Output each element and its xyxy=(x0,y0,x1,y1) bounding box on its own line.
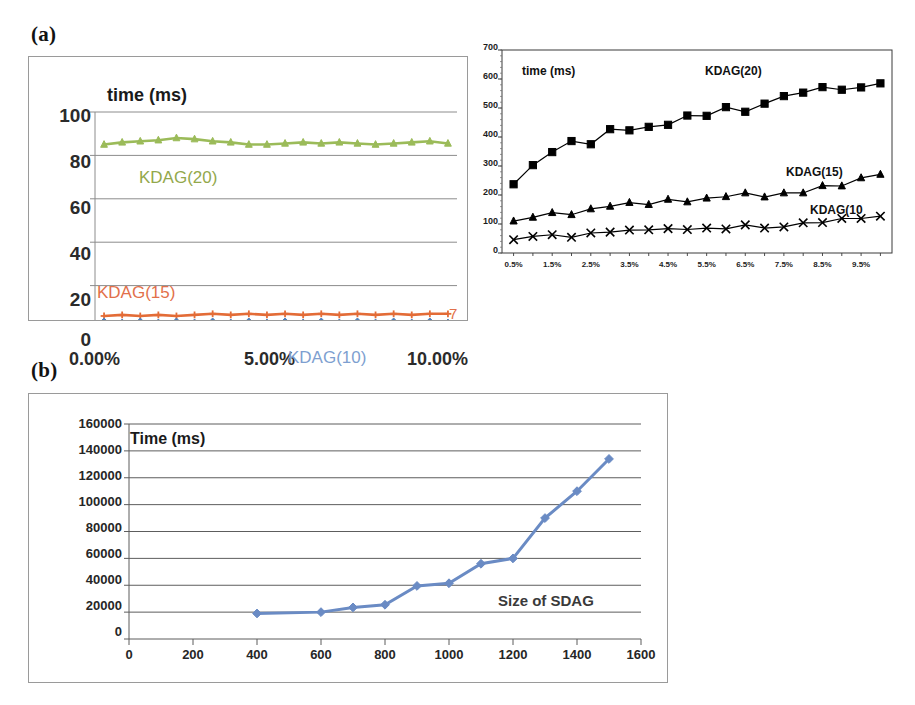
series-kdag20 xyxy=(510,80,884,188)
data-point-marker xyxy=(664,121,671,128)
data-point-marker xyxy=(510,181,517,188)
data-point-marker xyxy=(529,162,536,169)
data-point-marker xyxy=(626,127,633,134)
data-point-marker xyxy=(426,318,433,320)
data-point-marker xyxy=(819,84,826,91)
data-point-marker xyxy=(245,318,252,320)
data-point-marker xyxy=(119,311,126,318)
data-point-marker xyxy=(838,86,845,93)
data-point-marker xyxy=(607,126,614,133)
data-point-marker xyxy=(101,318,108,320)
chart-b: 0 20000 40000 60000 80000 100000 120000 … xyxy=(28,393,668,683)
data-point-marker xyxy=(300,311,307,318)
data-point-marker xyxy=(317,608,326,617)
data-point-marker xyxy=(408,319,415,320)
series-kdag15 xyxy=(101,310,452,319)
data-point-marker xyxy=(645,123,652,130)
series-line xyxy=(257,459,609,614)
data-point-marker xyxy=(549,148,556,155)
chart-a-right: 700 600 500 400 300 200 100 0 time (ms) … xyxy=(468,38,903,298)
series-kdag20 xyxy=(101,134,452,147)
data-point-marker xyxy=(780,189,787,196)
data-point-marker xyxy=(408,311,415,318)
x-tick-label: 5.00% xyxy=(244,349,295,370)
series-time-ms xyxy=(253,455,614,618)
data-point-marker xyxy=(354,310,361,317)
data-point-marker xyxy=(626,198,633,205)
data-point-marker xyxy=(282,310,289,317)
data-point-marker xyxy=(155,319,162,320)
data-point-marker xyxy=(761,100,768,107)
data-point-marker xyxy=(227,319,234,320)
data-point-marker xyxy=(191,319,198,320)
figure-root: (a) 0 20 40 60 80 100 0.00% 5.00% 10.00%… xyxy=(0,0,915,705)
x-tick-label: 10.00% xyxy=(407,349,468,370)
y-tick-label: 0 xyxy=(29,329,91,351)
data-point-marker xyxy=(722,104,729,111)
data-point-marker xyxy=(336,311,343,318)
data-point-marker xyxy=(549,209,556,216)
data-point-marker xyxy=(877,170,884,177)
data-point-marker xyxy=(587,141,594,148)
data-point-marker xyxy=(372,319,379,320)
data-point-marker xyxy=(684,112,691,119)
data-point-marker xyxy=(819,182,826,189)
data-point-marker xyxy=(282,318,289,320)
data-point-marker xyxy=(390,310,397,317)
data-point-marker xyxy=(445,310,452,317)
panel-label-a: (a) xyxy=(31,22,56,47)
data-point-marker xyxy=(372,311,379,318)
series-kdag10 xyxy=(101,318,452,320)
data-point-marker xyxy=(155,311,162,318)
series-line xyxy=(514,174,881,221)
data-point-marker xyxy=(800,89,807,96)
chart-a-right-plot xyxy=(468,38,903,298)
data-point-marker xyxy=(703,112,710,119)
data-point-marker xyxy=(780,93,787,100)
data-point-marker xyxy=(664,195,671,202)
data-point-marker xyxy=(253,609,262,618)
data-point-marker xyxy=(191,311,198,318)
data-point-marker xyxy=(173,318,180,320)
chart-a-left-plot xyxy=(29,57,467,320)
data-point-marker xyxy=(209,310,216,317)
data-point-marker xyxy=(858,84,865,91)
data-point-marker xyxy=(742,108,749,115)
chart-b-plot xyxy=(29,394,667,682)
data-point-marker xyxy=(119,319,126,320)
data-point-marker xyxy=(264,319,271,320)
data-point-marker xyxy=(318,318,325,320)
chart-a-left: 0 20 40 60 80 100 0.00% 5.00% 10.00% tim… xyxy=(28,56,468,321)
data-point-marker xyxy=(137,318,144,320)
series-label-kdag10: KDAG(10) xyxy=(288,348,366,368)
panel-label-b: (b) xyxy=(31,358,58,383)
data-point-marker xyxy=(264,311,271,318)
data-point-marker xyxy=(390,318,397,320)
data-point-marker xyxy=(227,311,234,318)
data-point-marker xyxy=(336,319,343,320)
data-point-marker xyxy=(445,319,452,320)
series-line xyxy=(514,83,881,184)
series-kdag10 xyxy=(509,212,884,244)
series-kdag15 xyxy=(510,170,884,224)
data-point-marker xyxy=(742,189,749,196)
data-point-marker xyxy=(568,137,575,144)
data-point-marker xyxy=(354,318,361,320)
data-point-marker xyxy=(300,319,307,320)
data-point-marker xyxy=(209,318,216,320)
data-point-marker xyxy=(426,310,433,317)
data-point-marker xyxy=(318,310,325,317)
data-point-marker xyxy=(877,80,884,87)
x-tick-label: 0.00% xyxy=(69,349,120,370)
plot-border xyxy=(502,50,892,253)
data-point-marker xyxy=(245,310,252,317)
data-point-marker xyxy=(349,603,358,612)
